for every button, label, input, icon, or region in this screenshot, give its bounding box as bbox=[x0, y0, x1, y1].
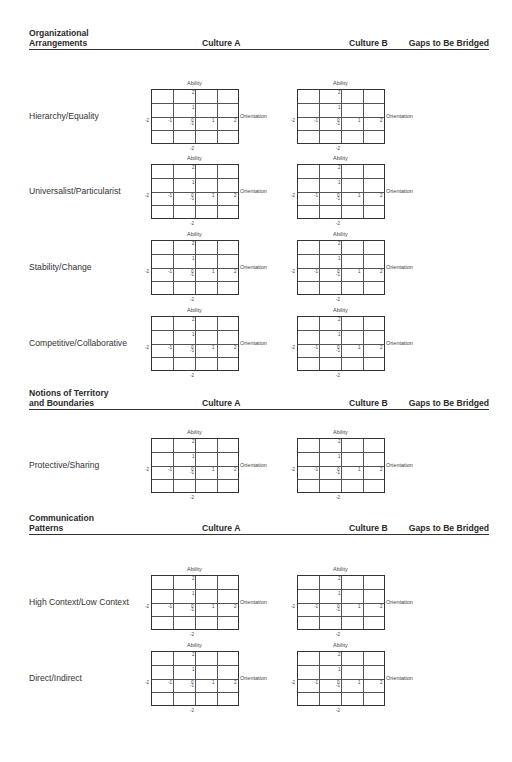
grid-hline bbox=[298, 130, 384, 131]
x-tick: 2 bbox=[380, 193, 383, 198]
section-header: OrganizationalArrangementsCulture ACultu… bbox=[29, 23, 489, 50]
grid-hline bbox=[298, 679, 384, 680]
y-tick: 1 bbox=[338, 667, 341, 672]
y-tick: 1 bbox=[338, 591, 341, 596]
section-title-line1: Communication bbox=[29, 513, 94, 523]
y-tick: 2 bbox=[192, 241, 195, 246]
y-tick: 1 bbox=[338, 180, 341, 185]
grid-hline bbox=[152, 466, 238, 467]
y-tick: 2 bbox=[192, 576, 195, 581]
column-header-gaps: Gaps to Be Bridged bbox=[409, 523, 489, 533]
y-axis-label: Ability bbox=[187, 566, 202, 572]
x-axis-label: Orientation bbox=[240, 599, 267, 605]
section-title-line2: Patterns bbox=[29, 523, 94, 533]
x-tick: -2 bbox=[291, 467, 295, 472]
x-tick: 2 bbox=[380, 269, 383, 274]
y-tick: 2 bbox=[338, 576, 341, 581]
y-tick: 1 bbox=[338, 256, 341, 261]
y-tick: 2 bbox=[192, 165, 195, 170]
y-tick: -2 bbox=[190, 708, 194, 713]
quadrant-grid-culture-b[interactable] bbox=[297, 240, 385, 295]
y-tick: -2 bbox=[336, 297, 340, 302]
grid-hline bbox=[152, 330, 238, 331]
grid-hline bbox=[298, 665, 384, 666]
y-axis-label: Ability bbox=[333, 231, 348, 237]
x-tick: 1 bbox=[358, 118, 361, 123]
y-tick: 2 bbox=[192, 317, 195, 322]
grid-hline bbox=[152, 603, 238, 604]
x-tick: -1 bbox=[168, 604, 172, 609]
y-tick: -2 bbox=[336, 146, 340, 151]
y-axis-label: Ability bbox=[187, 80, 202, 86]
quadrant-grid-culture-a[interactable] bbox=[151, 164, 239, 219]
quadrant-grid-culture-a[interactable] bbox=[151, 316, 239, 371]
quadrant-grid-culture-b[interactable] bbox=[297, 316, 385, 371]
y-tick: 1 bbox=[192, 256, 195, 261]
quadrant-grid-culture-a[interactable] bbox=[151, 575, 239, 630]
section-header: CommunicationPatternsCulture ACulture BG… bbox=[29, 508, 489, 535]
column-header-culture-b: Culture B bbox=[349, 398, 388, 408]
section-title-line1: Notions of Territory bbox=[29, 388, 109, 398]
column-header-gaps: Gaps to Be Bridged bbox=[409, 38, 489, 48]
x-tick: -2 bbox=[291, 193, 295, 198]
y-tick: -1 bbox=[336, 470, 340, 475]
quadrant-grid-culture-a[interactable] bbox=[151, 89, 239, 144]
y-tick: 1 bbox=[192, 332, 195, 337]
x-tick: -2 bbox=[145, 269, 149, 274]
x-tick: 1 bbox=[212, 345, 215, 350]
grid-hline bbox=[152, 344, 238, 345]
x-tick: 1 bbox=[212, 680, 215, 685]
x-tick: -2 bbox=[291, 680, 295, 685]
quadrant-grid-culture-b[interactable] bbox=[297, 575, 385, 630]
y-tick: -1 bbox=[190, 348, 194, 353]
y-tick: 2 bbox=[338, 439, 341, 444]
x-tick: 1 bbox=[358, 345, 361, 350]
y-tick: 2 bbox=[192, 90, 195, 95]
y-tick: 1 bbox=[338, 454, 341, 459]
y-axis-label: Ability bbox=[187, 429, 202, 435]
y-tick: -1 bbox=[190, 683, 194, 688]
x-tick: -1 bbox=[314, 193, 318, 198]
x-tick: 1 bbox=[212, 193, 215, 198]
dimension-label: Hierarchy/Equality bbox=[29, 111, 99, 121]
grid-hline bbox=[152, 479, 238, 480]
y-tick: -2 bbox=[336, 373, 340, 378]
quadrant-grid-culture-a[interactable] bbox=[151, 240, 239, 295]
grid-hline bbox=[298, 268, 384, 269]
grid-hline bbox=[152, 589, 238, 590]
quadrant-grid-culture-a[interactable] bbox=[151, 438, 239, 493]
dimension-label: Universalist/Particularist bbox=[29, 186, 121, 196]
grid-hline bbox=[298, 466, 384, 467]
quadrant-grid-culture-b[interactable] bbox=[297, 438, 385, 493]
dimension-label: Direct/Indirect bbox=[29, 673, 82, 683]
grid-hline bbox=[152, 130, 238, 131]
dimension-label: High Context/Low Context bbox=[29, 597, 129, 607]
x-axis-label: Orientation bbox=[386, 188, 413, 194]
grid-hline bbox=[152, 192, 238, 193]
y-tick: 2 bbox=[338, 165, 341, 170]
x-tick: 1 bbox=[212, 467, 215, 472]
quadrant-grid-culture-a[interactable] bbox=[151, 651, 239, 706]
grid-hline bbox=[298, 589, 384, 590]
y-tick: -2 bbox=[190, 146, 194, 151]
x-tick: -1 bbox=[168, 118, 172, 123]
section-title-line2: and Boundaries bbox=[29, 398, 109, 408]
x-axis-label: Orientation bbox=[386, 599, 413, 605]
x-tick: 1 bbox=[212, 118, 215, 123]
y-tick: -1 bbox=[336, 348, 340, 353]
x-axis-label: Orientation bbox=[240, 264, 267, 270]
quadrant-grid-culture-b[interactable] bbox=[297, 651, 385, 706]
x-tick: -1 bbox=[314, 680, 318, 685]
quadrant-grid-culture-b[interactable] bbox=[297, 89, 385, 144]
x-tick: -2 bbox=[291, 269, 295, 274]
grid-hline bbox=[298, 254, 384, 255]
x-tick: -2 bbox=[145, 193, 149, 198]
grid-hline bbox=[298, 479, 384, 480]
column-header-gaps: Gaps to Be Bridged bbox=[409, 398, 489, 408]
grid-hline bbox=[152, 103, 238, 104]
x-tick: -2 bbox=[145, 118, 149, 123]
x-axis-label: Orientation bbox=[240, 462, 267, 468]
quadrant-grid-culture-b[interactable] bbox=[297, 164, 385, 219]
y-tick: -2 bbox=[336, 221, 340, 226]
x-tick: -1 bbox=[314, 604, 318, 609]
